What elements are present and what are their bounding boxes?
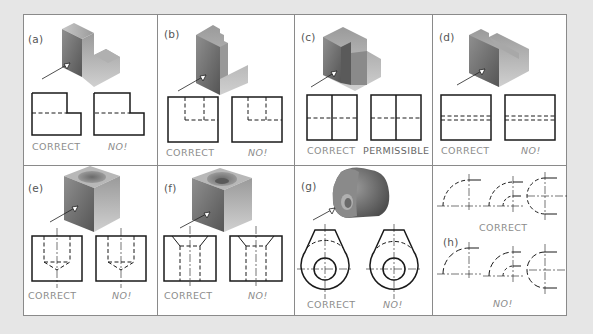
caption-correct: CORRECT [28,290,77,301]
view-wrong [505,95,555,140]
view-permissible [371,95,421,140]
caption-correct: CORRECT [479,222,528,233]
panel-d: (d) [433,15,568,165]
view-correct [441,95,491,140]
view-correct [32,93,81,135]
view-wrong [366,224,422,299]
view-arrow-icon [42,63,70,79]
panel-b: (b) [158,15,294,165]
view-correct [164,226,216,286]
panel-f: (f) [158,166,294,317]
panel-c-drawing [295,15,432,165]
view-correct [32,228,82,288]
isometric-block-d [469,29,529,87]
panel-d-drawing [433,15,568,165]
caption-no: NO! [493,298,513,309]
arcs-wrong [437,242,567,294]
caption-no: NO! [383,299,403,310]
arcs-correct [437,172,567,220]
caption-correct: CORRECT [164,290,213,301]
caption-correct: CORRECT [32,141,81,152]
caption-correct: CORRECT [307,299,356,310]
isometric-block-b [196,25,248,95]
isometric-block-a [62,23,120,87]
panel-e: (e) [24,166,157,317]
caption-no: NO! [248,147,268,158]
caption-correct: CORRECT [307,145,356,156]
view-correct [307,95,357,140]
panel-a: (a) [24,15,157,165]
caption-no: NO! [108,141,128,152]
view-wrong [96,228,146,288]
view-correct [297,224,353,299]
caption-correct: CORRECT [166,147,215,158]
panel-g: (g) [295,166,432,317]
view-correct [168,97,218,142]
caption-no: NO! [521,145,541,156]
panel-c: (c) CORRECT [295,15,432,165]
isometric-block-c [323,27,381,91]
isometric-bracket-g [333,167,390,218]
view-arrow-icon [313,208,335,220]
isometric-cube-countersunk-f [192,168,252,232]
caption-permissible: PERMISSIBLE [363,145,429,156]
view-wrong [230,226,282,286]
panel-label: (h) [443,236,458,248]
isometric-cube-drilled-e [64,166,120,232]
panel-b-drawing [158,15,294,165]
caption-no: NO! [112,290,132,301]
figure-frame: (a) [23,14,567,316]
view-wrong [232,97,282,142]
caption-no: NO! [248,290,268,301]
view-wrong [94,93,144,135]
panel-h: (h) CORRECT NO! [433,166,568,317]
caption-correct: CORRECT [441,145,490,156]
panel-g-drawing [295,166,432,317]
